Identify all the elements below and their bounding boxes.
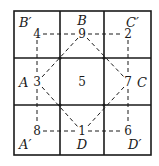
number-5: 5 [78, 75, 86, 89]
magic-square-diagram: B′ B C′ A C A′ D D′ 4 9 2 3 5 7 8 1 6 [0, 0, 159, 166]
number-2: 2 [124, 27, 132, 41]
number-3: 3 [33, 75, 41, 89]
label-b: B [76, 13, 87, 28]
number-4: 4 [33, 27, 41, 41]
number-8: 8 [33, 124, 41, 138]
label-b-prime: B′ [18, 15, 32, 30]
label-d-prime: D′ [127, 137, 141, 152]
number-1: 1 [78, 124, 86, 138]
label-d: D [76, 137, 88, 152]
number-9: 9 [78, 27, 86, 41]
label-a-prime: A′ [18, 137, 31, 152]
number-7: 7 [124, 75, 132, 89]
label-a: A [18, 75, 28, 90]
number-6: 6 [124, 124, 132, 138]
label-c: C [137, 75, 147, 90]
